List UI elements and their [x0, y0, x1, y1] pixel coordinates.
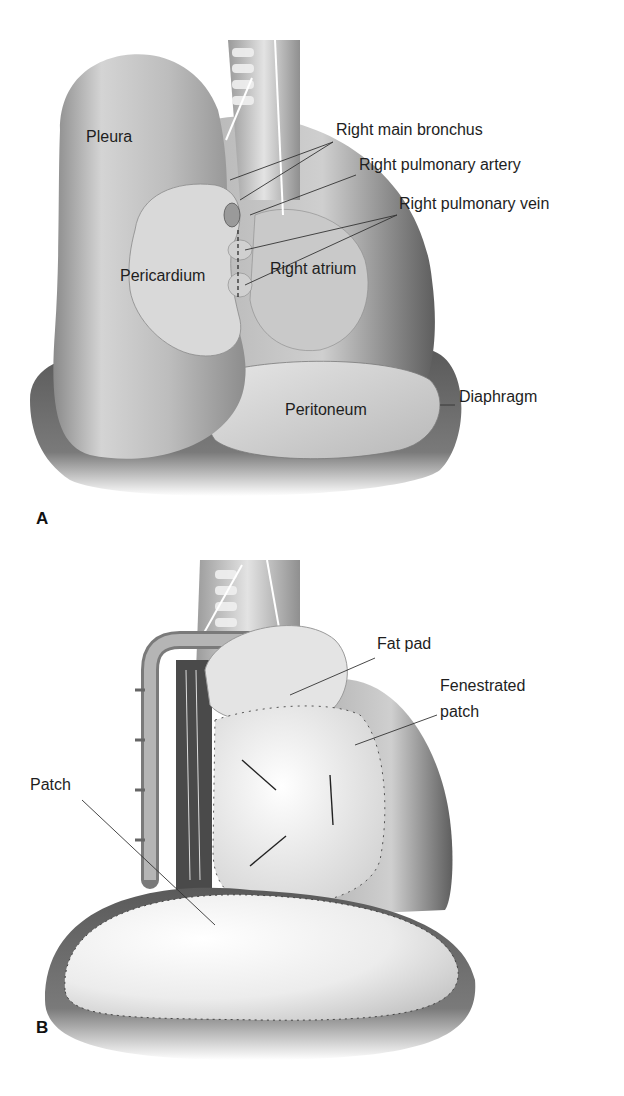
label-pleura: Pleura	[86, 129, 132, 145]
label-right-pulmonary-vein: Right pulmonary vein	[399, 196, 549, 212]
label-peritoneum: Peritoneum	[285, 402, 367, 418]
panel-letter-b: B	[36, 1019, 48, 1036]
label-patch: Patch	[30, 777, 71, 793]
label-right-main-bronchus: Right main bronchus	[336, 122, 483, 138]
panel-letter-a: A	[36, 510, 48, 527]
label-diaphragm: Diaphragm	[459, 389, 537, 405]
label-fenestrated-patch-line1: Fenestrated	[440, 678, 525, 694]
anatomical-figure: Pleura Right main bronchus Right pulmona…	[0, 0, 624, 1096]
label-right-atrium: Right atrium	[270, 261, 356, 277]
label-fat-pad: Fat pad	[377, 636, 431, 652]
illustration	[0, 0, 624, 1096]
panel-a-art	[30, 40, 461, 496]
label-right-pulmonary-artery: Right pulmonary artery	[359, 157, 521, 173]
label-fenestrated-patch-line2: patch	[440, 704, 479, 720]
label-pericardium: Pericardium	[120, 268, 205, 284]
